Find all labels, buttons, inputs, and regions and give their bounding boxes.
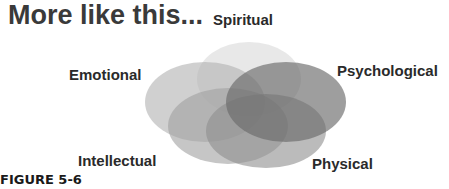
label-psychological: Psychological xyxy=(337,62,438,79)
label-physical: Physical xyxy=(312,155,373,172)
figure-caption: FIGURE 5-6 xyxy=(0,172,82,187)
label-intellectual: Intellectual xyxy=(78,152,156,169)
label-spiritual: Spiritual xyxy=(213,11,273,28)
label-emotional: Emotional xyxy=(69,66,142,83)
venn-diagram xyxy=(0,0,449,189)
psychological-ellipse xyxy=(226,62,346,142)
